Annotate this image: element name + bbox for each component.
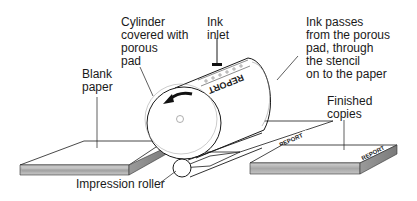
cylinder-leader [140, 67, 153, 96]
ink-inlet-label: Ink inlet [207, 16, 229, 42]
ink-passes-leader [277, 56, 298, 80]
ink-inlet [212, 38, 222, 66]
finished-copies-label: Finished copies [327, 95, 372, 121]
blank-paper-label: Blank paper [82, 68, 113, 94]
finished-copies-stack: REPORT [250, 145, 397, 174]
blank-paper-stack [20, 141, 170, 175]
cylinder-label: Cylinder covered with porous pad [121, 16, 188, 68]
impression-roller-label: Impression roller [76, 178, 165, 191]
ink-passes-label: Ink passes from the porous pad, through … [306, 16, 390, 81]
